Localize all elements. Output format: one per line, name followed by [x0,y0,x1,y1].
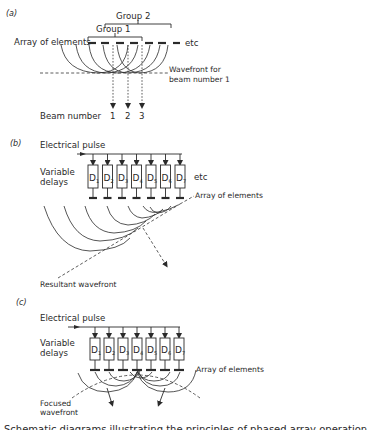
variable-delays-label-c-line2: delays [40,348,68,358]
focused-wavefront-label-line2: wavefront [40,408,78,417]
group-1-bracket [88,33,142,41]
wavelet-arcs-c [78,370,196,392]
resultant-wavefront-line [58,204,180,278]
resultant-wavefront-label: Resultant wavefront [40,280,116,289]
etc-label: etc [185,38,199,48]
delay-unit: D4 [132,154,143,198]
delay-unit: D7 [175,154,186,198]
delay-unit: D6 [161,154,172,198]
panel-c: (c) Electrical pulse Variable delays D1 … [16,298,264,417]
wavefront-label-line2: beam number 1 [169,75,230,84]
beam-2: 2 [125,111,130,121]
delay-unit: D3 [118,327,129,370]
delay-unit: D5 [146,327,157,370]
variable-delays-label-line1: Variable [40,167,75,177]
focused-wavefront-curve [72,375,200,398]
delay-unit: D1 [88,154,99,198]
delay-unit: D1 [90,327,101,370]
pulse-arrow-icon-c [74,325,80,329]
focused-wavefront-label-line1: Focused [40,399,71,408]
wavelet-arcs-b [44,205,178,251]
panel-b: (b) Electrical pulse Variable delays D1 … [10,139,263,289]
beam-3: 3 [139,111,144,121]
variable-delays-label-c-line1: Variable [40,338,75,348]
wavelet-arcs [61,45,168,73]
array-of-elements-label-b: Array of elements [195,191,263,200]
pulse-arrow-icon [80,152,86,156]
panel-b-tag: (b) [10,139,21,148]
delay-unit: D3 [117,154,128,198]
wavefront-label-line1: Wavefront for [169,65,222,74]
beam-1: 1 [110,111,115,121]
beam-direction-arrow-b [143,228,166,265]
delay-unit: D4 [132,327,143,370]
panel-c-tag: (c) [16,298,27,307]
array-of-elements-label: Array of elements [14,37,91,47]
beam-arrows [113,45,142,106]
group-1-label: Group 1 [96,24,130,34]
electrical-pulse-label-c: Electrical pulse [40,313,105,323]
variable-delays-label-line2: delays [40,177,68,187]
delay-units-b: D1 D2 D3 D4 [88,154,186,198]
group-2-label: Group 2 [116,11,150,21]
beam-number-label: Beam number [40,111,102,121]
panel-a-tag: (a) [6,9,17,18]
delay-unit: D2 [104,327,115,370]
electrical-pulse-label: Electrical pulse [40,140,105,150]
delay-units-c: D1 D2 D3 D4 [90,327,185,370]
delay-unit: D5 [146,154,157,198]
delay-unit: D7 [174,327,185,370]
delay-unit: D6 [160,327,171,370]
focus-arrow-left [107,388,112,404]
etc-label-b: etc [194,172,208,182]
array-of-elements-label-c: Array of elements [196,365,264,374]
figure-caption-partial: Schematic diagrams illustrating the prin… [4,423,367,430]
delay-unit: D2 [103,154,114,198]
panel-a: (a) Group 2 Group 1 Array of elements et… [6,9,230,121]
focus-arrow-right [159,388,165,404]
